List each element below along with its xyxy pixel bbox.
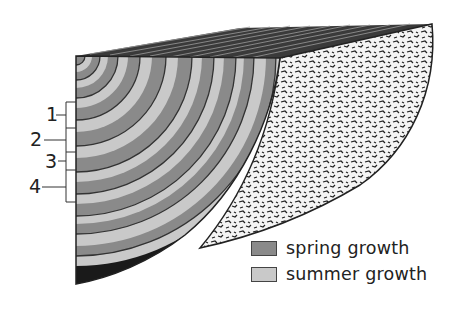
legend-item-summer: summer growth bbox=[251, 261, 427, 287]
ring-label-1: 1 bbox=[46, 103, 58, 125]
summer-swatch-icon bbox=[251, 267, 277, 282]
ring-label-4: 4 bbox=[29, 175, 41, 197]
legend-label: summer growth bbox=[286, 264, 427, 284]
legend-item-spring: spring growth bbox=[251, 235, 427, 261]
ring-label-3: 3 bbox=[45, 150, 57, 172]
ring-label-2: 2 bbox=[30, 128, 42, 150]
spring-swatch-icon bbox=[251, 241, 277, 256]
legend: spring growth summer growth bbox=[251, 235, 427, 287]
legend-label: spring growth bbox=[286, 238, 410, 258]
